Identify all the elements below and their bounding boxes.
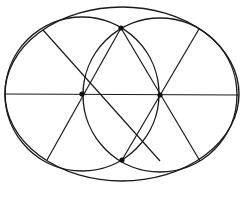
right-center-point	[157, 92, 162, 97]
bottom-intersection-point	[119, 157, 124, 162]
top-intersection-point	[118, 25, 123, 30]
diagram-canvas	[0, 0, 246, 197]
left-spoke-upper	[43, 30, 160, 161]
left-center-point	[79, 91, 84, 96]
geometric-construction-diagram	[0, 0, 246, 197]
lines-group	[5, 28, 239, 161]
horizontal-axis	[5, 94, 239, 95]
